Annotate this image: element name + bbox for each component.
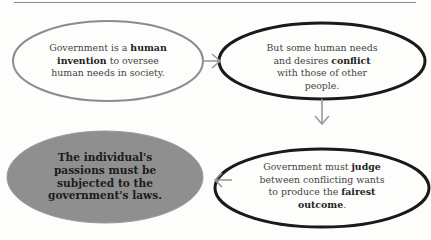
node-1-text: Government is a human invention to overs…	[40, 42, 176, 80]
node-3-text: Government must judge between conflictin…	[258, 161, 386, 211]
arrow-right-icon	[203, 54, 220, 68]
arrow-down-icon	[315, 99, 329, 124]
node-2-text: But some human needs and desires conflic…	[262, 42, 382, 92]
node-4-text: The individual's passions must be subjec…	[42, 151, 168, 202]
